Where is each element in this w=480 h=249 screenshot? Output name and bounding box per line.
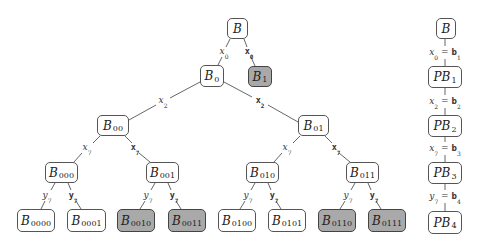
node-subscript: 0110 xyxy=(332,219,352,228)
tree-node-b1: B1 xyxy=(248,66,272,87)
edge-label-italic: y7 xyxy=(43,190,52,202)
node-label: B xyxy=(233,22,242,36)
tree-node-b0101: B0101 xyxy=(268,209,306,232)
path-node-pb3: PB3 xyxy=(428,162,462,184)
path-equation: y7 = b4 xyxy=(429,191,460,203)
tree-node-b0001: B0001 xyxy=(67,209,106,232)
node-label: PB xyxy=(434,70,451,84)
node-label: B xyxy=(21,214,30,228)
tree-edge xyxy=(218,57,222,65)
tree-edge xyxy=(351,183,355,190)
edge-label-bold: y7 xyxy=(69,190,78,202)
edge-label-italic: y7 xyxy=(344,190,353,202)
tree-node-b0010: B0010 xyxy=(117,209,155,232)
node-label: B xyxy=(150,166,159,180)
node-label: B xyxy=(205,69,214,83)
edge-label-bold: x7 xyxy=(131,142,140,154)
node-label: PB xyxy=(434,216,451,230)
tree-edge xyxy=(268,183,271,190)
node-label: B xyxy=(272,214,281,228)
path-equation: x7 = b3 xyxy=(429,143,460,155)
node-subscript: 0011 xyxy=(182,219,202,228)
tree-node-b: B xyxy=(227,18,248,39)
node-label: B xyxy=(250,166,259,180)
tree-edge xyxy=(74,153,82,162)
tree-node-b0011: B0011 xyxy=(168,209,206,232)
edge-label-italic: y7 xyxy=(144,190,153,202)
tree-node-b0100: B0100 xyxy=(218,209,256,232)
path-node-pb1: PB1 xyxy=(428,66,462,88)
tree-node-b0: B0 xyxy=(200,65,224,87)
node-subscript: 01 xyxy=(313,124,323,133)
edge-label-italic: x2 xyxy=(159,95,168,107)
tree-node-b0110: B0110 xyxy=(318,209,356,232)
node-subscript: 0010 xyxy=(131,219,151,228)
node-subscript: 001 xyxy=(160,171,175,180)
tree-edge xyxy=(93,136,100,143)
path-node-pb_root: B xyxy=(436,18,456,39)
tree-node-b01: B01 xyxy=(298,115,329,136)
node-subscript: 0111 xyxy=(382,219,402,228)
node-subscript: 3 xyxy=(451,172,456,181)
tree-edge xyxy=(251,183,255,190)
path-equation: x0 = b1 xyxy=(429,47,460,59)
node-subscript: 2 xyxy=(451,125,456,134)
tree-node-b001: B001 xyxy=(146,162,179,183)
node-subscript: 0 xyxy=(214,75,219,84)
edge-label-italic: x7 xyxy=(283,142,292,154)
node-label: B xyxy=(253,70,262,84)
tree-edge xyxy=(340,201,345,209)
node-subscript: 000 xyxy=(59,171,74,180)
node-label: B xyxy=(172,214,181,228)
node-subscript: 0100 xyxy=(232,219,252,228)
node-label: PB xyxy=(434,119,451,133)
tree-edge xyxy=(368,183,371,190)
tree-edge xyxy=(129,105,156,120)
edge-label-bold: x7 xyxy=(332,142,341,154)
tree-edge xyxy=(139,153,150,162)
edge-label-bold: x2 xyxy=(256,95,265,107)
tree-edge xyxy=(274,153,282,162)
edge-label-bold: y7 xyxy=(270,190,279,202)
tree-node-b000: B000 xyxy=(45,162,78,183)
node-label: B xyxy=(49,166,58,180)
tree-node-b0000: B0000 xyxy=(17,209,55,232)
tree-edge xyxy=(68,183,71,190)
node-label: B xyxy=(121,214,130,228)
node-subscript: 010 xyxy=(260,171,275,180)
tree-edge xyxy=(51,183,55,190)
node-label: B xyxy=(103,119,112,133)
tree-edge xyxy=(240,201,245,209)
node-subscript: 00 xyxy=(113,124,123,133)
path-equation: x2 = b2 xyxy=(429,96,460,108)
edge-label-bold: x0 xyxy=(245,46,254,58)
tree-edge xyxy=(140,201,145,209)
edge-label-italic: x7 xyxy=(83,142,92,154)
node-label: B xyxy=(303,119,312,133)
edge-label-italic: x0 xyxy=(220,46,229,58)
node-label: B xyxy=(222,214,231,228)
path-node-pb2: PB2 xyxy=(428,115,462,137)
node-label: B xyxy=(372,214,381,228)
node-subscript: 0101 xyxy=(282,219,302,228)
tree-edge xyxy=(151,183,155,190)
node-subscript: 0000 xyxy=(31,219,51,228)
tree-edge xyxy=(168,183,171,190)
tree-edge xyxy=(268,105,298,122)
node-label: PB xyxy=(434,166,451,180)
tree-node-b010: B010 xyxy=(246,162,279,183)
edge-label-bold: y7 xyxy=(370,190,379,202)
node-label: B xyxy=(322,214,331,228)
edge-label-italic: y7 xyxy=(244,190,253,202)
tree-edge xyxy=(41,201,45,209)
path-node-pb4: PB4 xyxy=(428,211,462,234)
tree-node-b011: B011 xyxy=(346,162,379,183)
tree-edge xyxy=(293,136,300,143)
node-label: B xyxy=(442,22,451,36)
node-subscript: 1 xyxy=(262,75,267,84)
tree-node-b0111: B0111 xyxy=(368,209,406,232)
tree-node-b00: B00 xyxy=(97,115,129,136)
node-subscript: 4 xyxy=(451,221,456,230)
edge-label-bold: y7 xyxy=(170,190,179,202)
node-subscript: 1 xyxy=(451,76,456,85)
